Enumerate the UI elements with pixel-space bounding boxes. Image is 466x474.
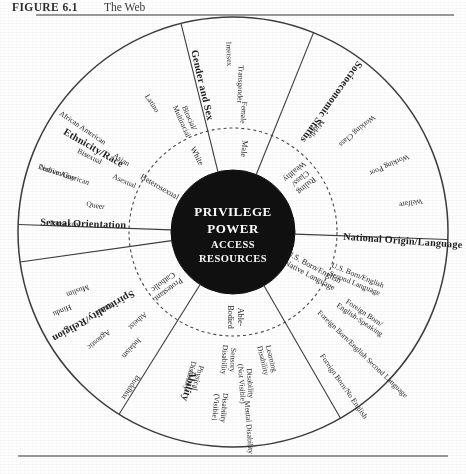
inner-label-ability: Able-Bodied	[226, 305, 244, 329]
hub-line-2: POWER	[207, 221, 259, 236]
web-diagram: PRIVILEGE POWER ACCESS RESOURCES Ethnici…	[0, 0, 466, 474]
inner-label-gender-and-sex: Male	[239, 140, 250, 158]
outer-label-gender-and-sex-2: Female	[239, 101, 250, 125]
outer-label-gender-and-sex-0: Intersex	[224, 42, 234, 67]
figure-root: FIGURE 6.1 The Web PRIVILEGE POWER ACCES…	[0, 0, 466, 474]
outer-label-gender-and-sex-1: Transgender	[235, 65, 245, 103]
hub-line-3: ACCESS	[211, 239, 255, 250]
outer-label-sexual-orientation-2: Pansexual	[50, 219, 81, 229]
hub-line-1: PRIVILEGE	[194, 204, 271, 219]
outer-label-ability-4: Disability(Visible)	[210, 392, 230, 424]
hub-line-4: RESOURCES	[199, 253, 267, 264]
outer-label-ability-2: SensoryDisability	[219, 345, 238, 376]
